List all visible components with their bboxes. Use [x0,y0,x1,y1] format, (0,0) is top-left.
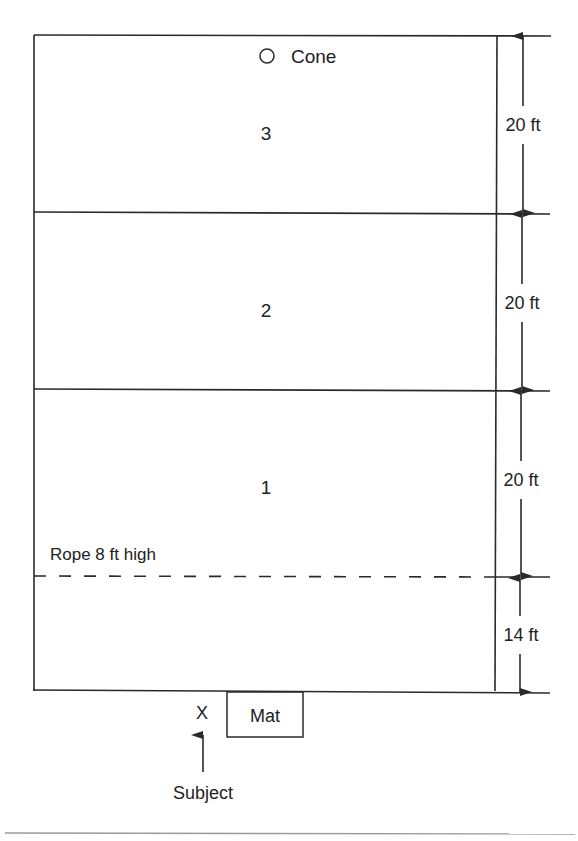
zone-1-label: 1 [261,477,272,498]
mat-label: Mat [250,706,280,726]
zone-2-dimension: 20 ft [504,293,539,313]
course-diagram: Cone 3 2 1 20 ft 20 ft 20 ft 14 ft Rope … [0,0,578,841]
field-right-edge [495,35,497,691]
zone-1-dimension: 20 ft [503,470,538,490]
zone-3-label: 3 [261,123,272,144]
cone-icon [260,49,274,63]
top-line [34,35,551,36]
subject-marker: X [196,703,208,723]
zone-3-dimension: 20 ft [505,115,540,135]
start-zone-dimension: 14 ft [503,625,538,645]
zone-2-1-divider [34,389,550,391]
zone-3-2-divider [34,212,550,214]
rope-label: Rope 8 ft high [50,545,156,564]
zone-2-label: 2 [261,300,272,321]
rope-line [34,576,495,577]
subject-label: Subject [173,783,233,803]
field-outline [33,35,551,693]
bottom-rule [5,833,575,834]
cone-label: Cone [291,46,336,67]
